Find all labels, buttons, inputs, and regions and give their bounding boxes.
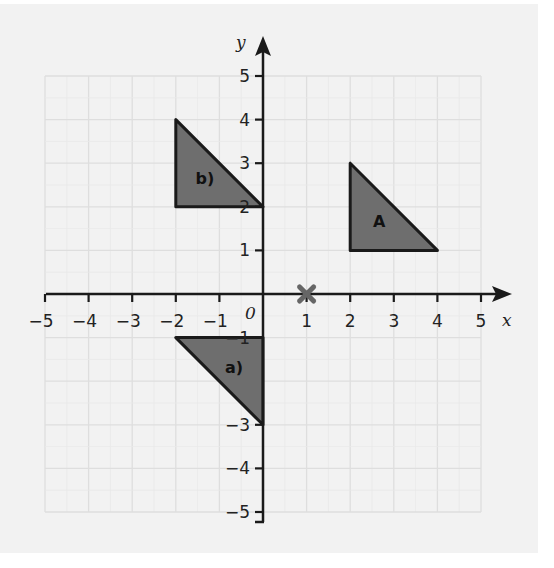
triangle-label: A (373, 212, 386, 231)
y-tick-label: 1 (239, 240, 250, 260)
y-tick-label: 4 (239, 110, 250, 130)
x-tick-label: 5 (476, 311, 487, 331)
y-tick-label: −4 (225, 458, 250, 478)
y-tick-label: −1 (225, 328, 250, 348)
x-tick-label: −3 (116, 311, 141, 331)
triangle-label: b) (195, 169, 214, 188)
y-tick-label: −5 (225, 502, 250, 522)
y-axis-label: y (235, 32, 246, 52)
y-tick-label: 3 (239, 153, 250, 173)
x-tick-label: −4 (72, 311, 97, 331)
x-tick-label: −5 (28, 311, 53, 331)
x-tick-label: 2 (345, 311, 356, 331)
triangle-label: a) (225, 358, 243, 377)
coordinate-grid: Ab)a) −5−4−3−2−11234554321−1−3−4−5 x y 0 (0, 0, 554, 568)
y-tick-label: 5 (239, 66, 250, 86)
x-axis-label: x (502, 310, 512, 330)
x-tick-label: −2 (159, 311, 184, 331)
x-tick-label: 3 (388, 311, 399, 331)
axes (46, 36, 512, 522)
x-tick-label: 1 (301, 311, 312, 331)
y-tick-label: 2 (239, 197, 250, 217)
origin-label: 0 (245, 303, 256, 323)
y-tick-label: −3 (225, 415, 250, 435)
x-tick-label: 4 (432, 311, 443, 331)
